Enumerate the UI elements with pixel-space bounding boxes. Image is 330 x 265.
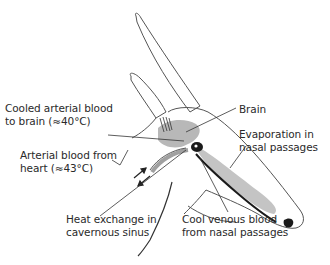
neck-back-outline [132,118,156,138]
ear-outline [130,73,166,118]
eye-highlight [194,144,197,147]
label-evaporation-nasal-passages: Evaporation in nasal passages [239,128,318,154]
label-cooled-arterial-blood: Cooled arterial blood to brain (≈40°C) [5,102,113,128]
label-heat-exchange-cavernous-sinus: Heat exchange in cavernous sinus [66,213,157,239]
label-brain: Brain [239,103,266,116]
label-arterial-blood-from-heart: Arterial blood from heart (≈43°C) [20,149,117,175]
horn-outline [135,13,200,112]
label-cool-venous-blood: Cool venous blood from nasal passages [182,213,288,239]
